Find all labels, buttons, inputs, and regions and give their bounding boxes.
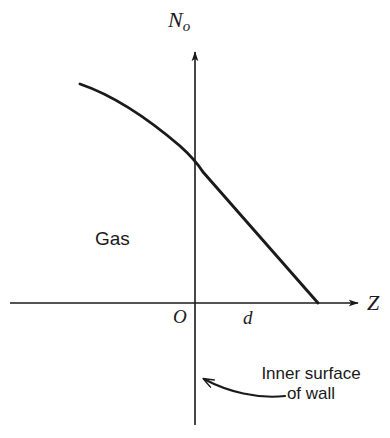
distance-label: d [243, 307, 253, 329]
wall-annotation-line-2: of wall [243, 384, 379, 404]
concentration-curve [80, 84, 318, 303]
physics-concentration-diagram: No Z O d Gas Inner surfaceof wall [0, 0, 390, 438]
y-axis-label: No [168, 7, 190, 36]
wall-annotation: Inner surfaceof wall [243, 364, 379, 404]
wall-annotation-line-1: Inner surface [261, 364, 360, 383]
origin-label: O [173, 306, 187, 328]
y-axis-label-base: N [168, 7, 183, 32]
x-axis-label: Z [367, 290, 379, 316]
y-axis-label-subscript: o [183, 18, 191, 34]
gas-region-label: Gas [95, 228, 130, 250]
